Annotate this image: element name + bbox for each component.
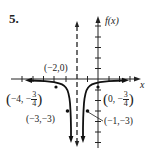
point-0-neg3over4 <box>96 85 99 88</box>
label-point-neg1: (−1,−3) <box>104 117 133 127</box>
function-graph <box>0 0 152 150</box>
label-point-neg3: (−3,−3) <box>26 115 55 125</box>
vertical-asymptote <box>75 21 79 147</box>
label-asymptote-intercept: (−2,0) <box>44 64 68 74</box>
leader-line <box>88 112 103 121</box>
label-point-0: (0, −34) <box>103 91 134 108</box>
label-point-neg4: (−4, −34) <box>6 91 42 108</box>
x-axis-label: x <box>140 79 144 90</box>
y-axis-label: f(x) <box>105 15 119 26</box>
point-neg3-neg3 <box>66 109 70 113</box>
point-neg4-neg3over4 <box>54 85 57 88</box>
